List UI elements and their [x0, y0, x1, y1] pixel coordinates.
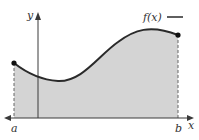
left-endpoint-dot — [11, 60, 16, 65]
y-axis-arrow-icon — [35, 12, 41, 20]
x-axis-left-arrow-icon — [4, 115, 11, 121]
shaded-area — [14, 29, 178, 118]
function-label: f(x) — [142, 11, 162, 24]
left-bound-label: a — [11, 122, 18, 135]
right-endpoint-dot — [175, 32, 180, 37]
area-under-curve-diagram: y f(x) a b x — [0, 0, 199, 140]
right-bound-label: b — [175, 122, 182, 135]
y-axis-label: y — [26, 9, 34, 22]
x-axis-label: x — [188, 119, 195, 132]
